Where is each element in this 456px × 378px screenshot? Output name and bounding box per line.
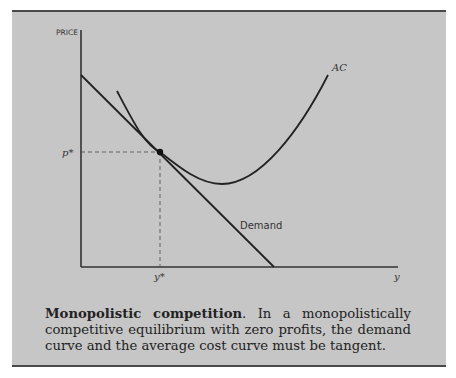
figure-caption: Monopolistic competition. In a monopolis… xyxy=(45,306,411,354)
caption-title: Monopolistic competition xyxy=(45,306,242,321)
demand-curve xyxy=(81,75,274,267)
y-axis-label: PRICE xyxy=(56,28,78,37)
demand-label: Demand xyxy=(240,220,282,231)
ac-label: AC xyxy=(331,62,347,73)
x-axis-label: y xyxy=(393,271,400,282)
y-star-label: y* xyxy=(153,271,165,282)
ac-curve xyxy=(117,75,328,184)
p-star-label: p* xyxy=(62,147,73,158)
tangency-point xyxy=(157,149,163,155)
